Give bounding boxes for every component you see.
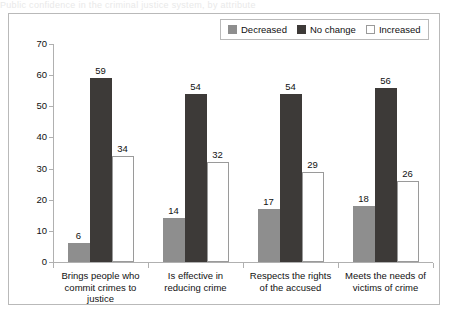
bar[interactable] [207,162,229,262]
bar[interactable] [302,172,324,262]
chart-frame: Decreased No change Increased 0102030405… [8,13,440,305]
category-label-line: reducing crime [148,282,243,294]
y-axis-tick-label: 0 [21,257,47,266]
category-label-line: justice [53,293,148,305]
y-axis-tick-label: 30 [21,164,47,173]
bar-column: 14 [163,44,185,262]
bar[interactable] [397,181,419,262]
bar-column: 59 [90,44,112,262]
bar-value-label: 32 [212,150,223,160]
y-axis-tick-mark [49,137,54,138]
bar-column: 34 [112,44,134,262]
bar[interactable] [185,94,207,262]
bar[interactable] [163,218,185,262]
bar-group: 175429 [258,44,324,262]
chart-legend: Decreased No change Increased [220,19,429,40]
bar[interactable] [112,156,134,262]
bar-value-label: 34 [117,144,128,154]
bar-group: 145432 [163,44,229,262]
y-axis-tick-label: 20 [21,195,47,204]
bar[interactable] [90,78,112,262]
bar-value-label: 29 [307,160,318,170]
bar-column: 18 [353,44,375,262]
bar-value-label: 56 [380,76,391,86]
y-axis-tick-label: 10 [21,226,47,235]
bar-value-label: 17 [263,197,274,207]
cut-off-title: Public confidence in the criminal justic… [0,0,449,10]
bar[interactable] [375,88,397,262]
bar-value-label: 6 [76,231,81,241]
bar-group: 65934 [68,44,134,262]
y-axis-tick-mark [49,75,54,76]
bar[interactable] [353,206,375,262]
bar-column: 26 [397,44,419,262]
category-label-line: Is effective in [148,270,243,282]
bar-column: 54 [280,44,302,262]
x-axis-tick-mark [148,263,149,268]
legend-item-decreased[interactable]: Decreased [228,24,287,35]
y-axis-tick-label: 50 [21,101,47,110]
category-label-line: victims of crime [338,282,433,294]
y-axis-tick-mark [49,169,54,170]
category-label-line: of the accused [243,282,338,294]
legend-label-no-change: No change [310,24,356,35]
x-axis-tick-mark [53,263,54,268]
category-label-line: Brings people who [53,270,148,282]
y-axis-tick-mark [49,200,54,201]
legend-item-no-change[interactable]: No change [297,24,356,35]
x-axis-tick-mark [433,263,434,268]
category-label: Respects the rightsof the accused [243,270,338,293]
bar-value-label: 18 [358,194,369,204]
category-label: Is effective inreducing crime [148,270,243,293]
bar-column: 6 [68,44,90,262]
y-axis-tick-mark [49,231,54,232]
category-label-line: commit crimes to [53,282,148,294]
bar-value-label: 54 [190,82,201,92]
bar-value-label: 14 [168,206,179,216]
y-axis-tick-label: 40 [21,132,47,141]
legend-label-increased: Increased [379,24,421,35]
bar-value-label: 59 [95,66,106,76]
bar-column: 29 [302,44,324,262]
bar-value-label: 54 [285,82,296,92]
x-axis-tick-mark [338,263,339,268]
category-label: Brings people whocommit crimes tojustice [53,270,148,305]
bar[interactable] [280,94,302,262]
bar-column: 32 [207,44,229,262]
y-axis-tick-mark [49,106,54,107]
legend-label-decreased: Decreased [241,24,287,35]
legend-item-increased[interactable]: Increased [366,24,421,35]
category-label: Meets the needs ofvictims of crime [338,270,433,293]
legend-swatch-decreased [228,25,237,34]
legend-swatch-increased [366,25,375,34]
bar[interactable] [258,209,280,262]
bar-column: 17 [258,44,280,262]
y-axis-tick-label: 70 [21,39,47,48]
bar[interactable] [68,243,90,262]
bar-group: 185626 [353,44,419,262]
bar-column: 56 [375,44,397,262]
y-axis-tick-label: 60 [21,70,47,79]
category-label-line: Respects the rights [243,270,338,282]
x-axis-tick-mark [243,263,244,268]
category-label-line: Meets the needs of [338,270,433,282]
y-axis-tick-mark [49,44,54,45]
legend-swatch-no-change [297,25,306,34]
bar-value-label: 26 [402,169,413,179]
bar-column: 54 [185,44,207,262]
